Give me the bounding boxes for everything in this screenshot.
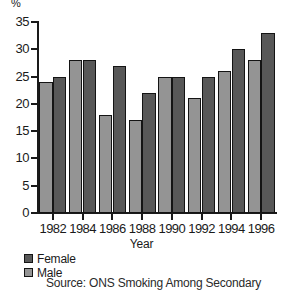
bar-male-1986 [99,115,112,213]
y-tick [31,157,38,159]
y-tick-label: 5 [22,179,29,192]
legend-swatch-female [24,254,33,263]
x-tick [111,214,113,220]
y-tick [31,48,38,50]
x-tick-label: 1996 [243,222,279,236]
y-tick-label: 15 [16,124,29,137]
source-caption: Source: ONS Smoking Among Secondary [46,277,261,290]
y-tick [31,130,38,132]
bar-female-1984 [83,60,96,213]
bar-female-1990 [172,77,185,213]
plot-area [38,22,276,213]
legend-item-female: Female [24,252,76,265]
x-axis-title: Year [0,238,283,251]
y-tick-label: 35 [16,15,29,28]
bar-female-1986 [113,66,126,213]
x-tick [171,214,173,220]
bar-female-1982 [53,77,66,213]
bar-female-1996 [261,33,274,213]
bar-male-1996 [248,60,261,213]
y-tick-label: 25 [16,70,29,83]
y-tick [31,185,38,187]
y-tick [31,103,38,105]
legend-swatch-male [24,268,33,277]
bar-female-1994 [232,49,245,213]
bar-male-1988 [129,120,142,213]
y-tick [31,76,38,78]
y-tick-label: 10 [16,151,29,164]
y-tick-label: 20 [16,97,29,110]
x-tick [52,214,54,220]
y-axis-unit-label: % [11,0,20,9]
x-tick [230,214,232,220]
bar-male-1990 [158,77,171,213]
bar-male-1994 [218,71,231,213]
bar-female-1992 [202,77,215,213]
bar-male-1984 [69,60,82,213]
legend-label: Female [37,253,76,265]
x-tick [260,214,262,220]
y-tick [31,212,38,214]
bar-male-1992 [188,98,201,213]
bar-female-1988 [142,93,155,213]
x-tick [201,214,203,220]
x-tick [141,214,143,220]
y-tick-label: 30 [16,42,29,55]
x-tick [82,214,84,220]
y-tick-label: 0 [22,206,29,219]
y-tick [31,21,38,23]
bar-male-1982 [39,82,52,213]
